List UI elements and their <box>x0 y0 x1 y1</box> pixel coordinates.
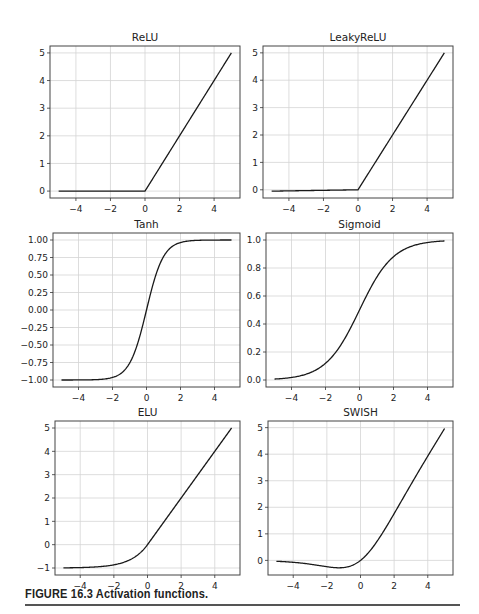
x-tick-label: −2 <box>320 581 333 591</box>
x-tick-label: 4 <box>212 581 218 591</box>
chart-title: ReLU <box>132 31 158 43</box>
y-tick-label: 0.6 <box>247 291 262 301</box>
y-tick-label: 4 <box>252 75 258 85</box>
x-tick-label: 2 <box>177 204 183 214</box>
x-tick-label: −2 <box>317 204 330 214</box>
y-tick-label: −1.00 <box>20 375 48 385</box>
y-tick-label: 1 <box>257 529 263 539</box>
y-tick-label: 5 <box>39 48 45 58</box>
y-tick-label: 0.4 <box>247 319 262 329</box>
x-tick-label: −4 <box>282 204 296 214</box>
chart-sigmoid: −4−20240.00.20.40.60.81.0Sigmoid <box>247 218 453 403</box>
y-tick-label: 1.0 <box>247 235 262 245</box>
chart-title: SWISH <box>343 406 378 418</box>
y-tick-label: −0.75 <box>20 358 48 368</box>
y-tick-label: 2 <box>252 130 258 140</box>
caption-rule <box>25 604 460 606</box>
chart-tanh: −4−20241.000.750.500.250.00−0.25−0.50−0.… <box>20 218 240 403</box>
y-tick-label: 0.0 <box>247 375 262 385</box>
y-tick-label: 0 <box>39 186 45 196</box>
y-tick-label: 5 <box>257 423 263 433</box>
y-tick-label: 2 <box>257 502 263 512</box>
x-tick-label: −2 <box>319 393 332 403</box>
x-tick-label: −4 <box>285 393 299 403</box>
chart-leakyrelu: −4−2024012345LeakyReLU <box>252 31 453 214</box>
x-tick-label: 4 <box>425 581 431 591</box>
x-tick-label: 2 <box>178 393 184 403</box>
y-tick-label: 5 <box>44 423 50 433</box>
x-tick-label: −4 <box>287 581 301 591</box>
x-tick-label: 2 <box>390 204 396 214</box>
y-tick-label: 4 <box>257 449 263 459</box>
x-tick-label: −2 <box>106 393 119 403</box>
y-tick-label: 0.25 <box>28 288 48 298</box>
y-tick-label: 2 <box>44 493 50 503</box>
y-tick-label: 1.00 <box>28 235 48 245</box>
x-tick-label: 2 <box>391 581 397 591</box>
y-tick-label: 0.8 <box>247 263 262 273</box>
figure-caption: FIGURE 16.3 Activation functions. <box>25 587 208 601</box>
y-tick-label: 3 <box>252 103 258 113</box>
x-tick-label: 2 <box>391 393 397 403</box>
x-tick-label: 0 <box>355 204 361 214</box>
x-tick-label: 0 <box>358 581 364 591</box>
chart-title: Sigmoid <box>338 218 380 230</box>
y-tick-label: −1 <box>37 563 50 573</box>
y-tick-label: 0.75 <box>28 253 48 263</box>
y-tick-label: 0 <box>252 185 258 195</box>
chart-elu: −4−2024−1012345ELU <box>37 406 240 591</box>
y-tick-label: 1 <box>44 517 50 527</box>
x-tick-label: 0 <box>144 393 150 403</box>
x-tick-label: −4 <box>69 204 83 214</box>
y-tick-label: 3 <box>257 476 263 486</box>
x-tick-label: 4 <box>424 204 430 214</box>
activation-functions-figure: −4−2024012345ReLU−4−2024012345LeakyReLU−… <box>0 0 479 614</box>
y-tick-label: −0.50 <box>20 340 48 350</box>
y-tick-label: 3 <box>44 470 50 480</box>
y-tick-label: 2 <box>39 131 45 141</box>
chart-relu: −4−2024012345ReLU <box>39 31 240 214</box>
y-tick-label: 0 <box>44 540 50 550</box>
y-tick-label: 5 <box>252 48 258 58</box>
x-tick-label: −4 <box>72 393 86 403</box>
y-tick-label: 4 <box>44 447 50 457</box>
y-tick-label: 0 <box>257 556 263 566</box>
x-tick-label: 0 <box>142 204 148 214</box>
x-tick-label: 0 <box>357 393 363 403</box>
y-tick-label: 4 <box>39 76 45 86</box>
x-tick-label: 4 <box>212 393 218 403</box>
x-tick-label: 4 <box>425 393 431 403</box>
chart-title: Tanh <box>133 218 158 230</box>
y-tick-label: 1 <box>39 159 45 169</box>
y-tick-label: 1 <box>252 158 258 168</box>
x-tick-label: −2 <box>104 204 117 214</box>
y-tick-label: 0.50 <box>28 270 48 280</box>
y-tick-label: 0.2 <box>247 347 261 357</box>
y-tick-label: 0.00 <box>28 305 48 315</box>
y-tick-label: 3 <box>39 103 45 113</box>
y-tick-label: −0.25 <box>20 323 48 333</box>
chart-swish: −4−2024012345SWISH <box>257 406 453 591</box>
chart-title: LeakyReLU <box>330 31 387 43</box>
x-tick-label: 4 <box>211 204 217 214</box>
chart-title: ELU <box>138 406 158 418</box>
